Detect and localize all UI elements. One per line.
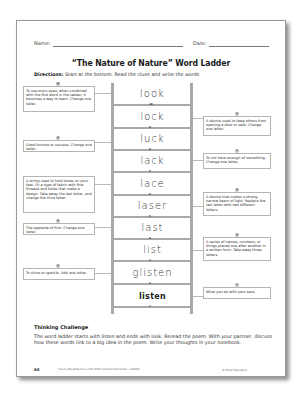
ladder-rung: 3 — [111, 260, 191, 262]
clue-connector — [95, 227, 111, 228]
page-number: 64 — [34, 367, 40, 372]
clue-connector — [193, 250, 203, 251]
clue-9: A device used to keep others from openin… — [203, 116, 271, 136]
clue-3: A series of names, numbers, or things pl… — [203, 237, 271, 261]
clue-6: A string used to hold shoes on your feet… — [23, 176, 95, 213]
thinking-challenge-heading: Thinking Challenge — [34, 324, 88, 330]
clue-7: To not have enough of something. Change … — [203, 153, 271, 169]
ladder-word-start: listen — [114, 292, 191, 301]
clue-10: To use one's eyes; when combined with th… — [23, 86, 95, 112]
clue-2: To shine or sparkle. Add one letter. — [23, 268, 95, 280]
ladder-rung: 5 — [111, 216, 191, 218]
ladder-rung: 4 — [111, 238, 191, 240]
ladder-rung: 7 — [111, 171, 191, 173]
ladder-rung: 9 — [111, 127, 191, 129]
clue-5: A device that makes a strong, narrow bea… — [203, 192, 271, 216]
directions-label: Directions: — [34, 72, 64, 77]
clue-4: The opposite of first. Change one letter… — [23, 223, 95, 235]
ladder-rung: 1 — [111, 306, 191, 308]
directions-text: Start at the bottom. Read the clues and … — [64, 72, 201, 77]
ladder-rung: 6 — [111, 194, 191, 196]
thinking-challenge-body: The word ladder starts with listen and e… — [34, 334, 274, 346]
clue-connector — [193, 160, 203, 161]
ladder-word[interactable]: lock — [114, 111, 191, 122]
ladder-rung: 8 — [111, 149, 191, 151]
date-label: Date: — [193, 40, 207, 46]
directions: Directions: Start at the bottom. Read th… — [34, 72, 201, 77]
clue-connector — [95, 142, 111, 143]
clue-1: What you do with your ears. — [203, 287, 271, 299]
date-field[interactable] — [209, 46, 269, 47]
clue-connector — [193, 206, 203, 207]
ladder-word[interactable]: laser — [114, 200, 191, 211]
clue-connector — [95, 273, 111, 274]
book-title: Fluency/Reading Clues with Differentiate… — [58, 368, 140, 371]
page-title: “The Nature of Nature” Word Ladder — [30, 58, 271, 68]
ladder-word[interactable]: glisten — [114, 267, 191, 278]
ladder-word[interactable]: lace — [114, 178, 191, 189]
clue-connector — [95, 93, 111, 94]
ladder-word[interactable]: luck — [114, 133, 191, 144]
name-label: Name: — [34, 40, 50, 46]
ladder-rung: 10 — [111, 104, 191, 106]
clue-8: Good fortune or success. Change one lett… — [23, 140, 95, 152]
ladder-word[interactable]: lack — [114, 155, 191, 166]
ladder-word[interactable]: last — [114, 222, 191, 233]
clue-connector — [193, 118, 203, 119]
clue-connector — [95, 184, 111, 185]
worksheet-page: Name: Date: “The Nature of Nature” Word … — [16, 20, 286, 377]
name-field[interactable] — [53, 46, 183, 47]
ladder-word[interactable]: list — [114, 244, 191, 255]
ladder-rung: 2 — [111, 283, 191, 285]
ladder-word[interactable]: look — [114, 88, 191, 99]
copyright: © Shell Education — [222, 368, 247, 372]
clue-connector — [193, 296, 203, 297]
